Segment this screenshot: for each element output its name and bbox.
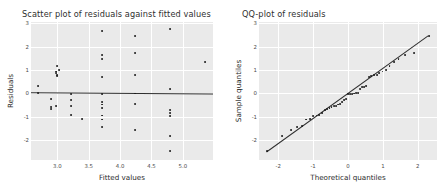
data-point bbox=[169, 135, 171, 137]
scatter-plot-panel: Scatter plot of residuals against fitted… bbox=[0, 0, 224, 194]
y-tick-label: -1 bbox=[249, 114, 257, 120]
grid-line-horizontal bbox=[31, 140, 213, 141]
grid-line-horizontal bbox=[31, 47, 213, 48]
data-point bbox=[101, 30, 103, 32]
data-point bbox=[37, 92, 39, 94]
data-point bbox=[58, 69, 60, 71]
y-tick-label: 1 bbox=[249, 67, 257, 73]
qq-plot-axes bbox=[259, 22, 437, 160]
y-tick-label: -2 bbox=[249, 137, 257, 143]
data-point bbox=[56, 65, 58, 67]
qq-plot-panel: QQ-plot of residuals Theoretical quantil… bbox=[224, 0, 448, 194]
data-point bbox=[70, 93, 72, 95]
y-tick-label: 1 bbox=[21, 67, 29, 73]
x-tick-label: 4.5 bbox=[147, 163, 156, 169]
data-point bbox=[339, 103, 341, 105]
data-point bbox=[366, 85, 368, 87]
data-point bbox=[134, 52, 136, 54]
data-point bbox=[376, 74, 378, 76]
grid-line-horizontal bbox=[31, 117, 213, 118]
data-point bbox=[389, 65, 391, 67]
data-point bbox=[101, 54, 103, 56]
qq-y-axis-label: Sample quantiles bbox=[234, 60, 243, 122]
data-point bbox=[134, 93, 136, 95]
x-tick-label: -2 bbox=[276, 163, 281, 169]
data-point bbox=[37, 85, 39, 87]
data-point bbox=[316, 115, 318, 117]
data-point bbox=[82, 118, 84, 120]
data-point bbox=[56, 76, 58, 78]
data-point bbox=[204, 61, 206, 63]
data-point bbox=[321, 112, 323, 114]
data-point bbox=[357, 92, 359, 94]
data-point bbox=[404, 54, 406, 56]
data-point bbox=[266, 150, 268, 152]
x-tick-label: 3.5 bbox=[84, 163, 93, 169]
data-point bbox=[370, 76, 372, 78]
data-point bbox=[55, 71, 57, 73]
grid-line-horizontal bbox=[259, 23, 437, 24]
data-point bbox=[134, 35, 136, 37]
data-point bbox=[169, 112, 171, 114]
data-point bbox=[169, 150, 171, 152]
y-tick-label: 3 bbox=[21, 20, 29, 26]
data-point bbox=[101, 104, 103, 106]
data-point bbox=[296, 126, 298, 128]
data-point bbox=[341, 101, 343, 103]
qq-x-axis-label: Theoretical quantiles bbox=[310, 173, 386, 182]
data-point bbox=[101, 119, 103, 121]
y-tick-label: 2 bbox=[249, 44, 257, 50]
data-point bbox=[385, 69, 387, 71]
data-point bbox=[301, 125, 303, 127]
data-point bbox=[373, 74, 375, 76]
y-tick-label: -1 bbox=[21, 114, 29, 120]
x-tick-label: 0 bbox=[346, 163, 349, 169]
data-point bbox=[101, 107, 103, 109]
data-point bbox=[50, 108, 52, 110]
grid-line-horizontal bbox=[31, 23, 213, 24]
data-point bbox=[345, 98, 347, 100]
y-tick-label: -2 bbox=[21, 137, 29, 143]
y-tick-label: 2 bbox=[21, 44, 29, 50]
data-point bbox=[326, 108, 328, 110]
data-point bbox=[309, 118, 311, 120]
x-tick-label: 2 bbox=[416, 163, 419, 169]
data-point bbox=[382, 71, 384, 73]
data-point bbox=[101, 76, 103, 78]
data-point bbox=[318, 114, 320, 116]
data-point bbox=[70, 99, 72, 101]
grid-line-horizontal bbox=[259, 70, 437, 71]
data-point bbox=[290, 129, 292, 131]
data-point bbox=[413, 52, 415, 54]
data-point bbox=[101, 126, 103, 128]
y-tick-label: 3 bbox=[249, 20, 257, 26]
data-point bbox=[134, 74, 136, 76]
x-tick-label: 1 bbox=[381, 163, 384, 169]
data-point bbox=[312, 115, 314, 117]
qq-plot-title: QQ-plot of residuals bbox=[242, 9, 326, 19]
grid-line-horizontal bbox=[259, 140, 437, 141]
data-point bbox=[393, 61, 395, 63]
data-point bbox=[70, 105, 72, 107]
data-point bbox=[101, 93, 103, 95]
data-point bbox=[134, 129, 136, 131]
scatter-y-axis-label: Residuals bbox=[6, 74, 15, 108]
data-point bbox=[169, 88, 171, 90]
data-point bbox=[306, 119, 308, 121]
data-point bbox=[55, 105, 57, 107]
y-tick-label: 0 bbox=[21, 90, 29, 96]
scatter-plot-title: Scatter plot of residuals against fitted… bbox=[22, 9, 211, 19]
data-point bbox=[101, 115, 103, 117]
data-point bbox=[101, 58, 103, 60]
y-tick-label: 0 bbox=[249, 90, 257, 96]
data-point bbox=[134, 103, 136, 105]
grid-line-horizontal bbox=[259, 117, 437, 118]
data-point bbox=[50, 98, 52, 100]
scatter-x-axis-label: Fitted values bbox=[99, 173, 145, 182]
data-point bbox=[169, 115, 171, 117]
scatter-plot-axes bbox=[31, 22, 213, 160]
data-point bbox=[398, 58, 400, 60]
data-point bbox=[378, 72, 380, 74]
data-point bbox=[428, 35, 430, 37]
x-tick-label: 3.0 bbox=[53, 163, 62, 169]
